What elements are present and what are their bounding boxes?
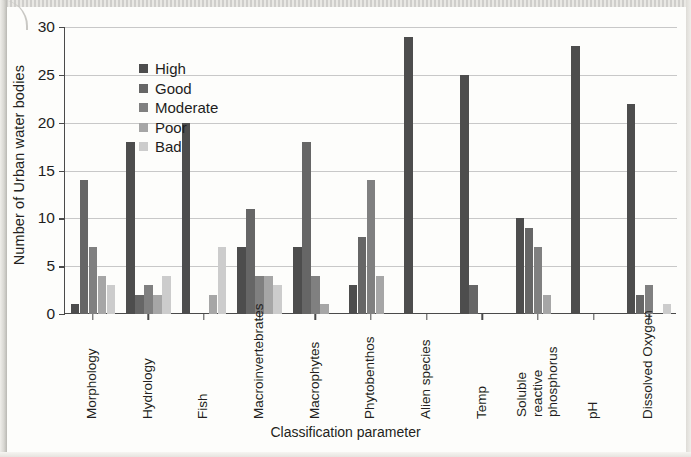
y-axis-tick-label: 15 (38, 162, 55, 180)
x-axis-label-morphology: Morphology (64, 321, 120, 419)
bar-poor[interactable] (543, 295, 552, 314)
bar-poor[interactable] (264, 276, 273, 314)
y-axis-title-label: Number of Urban water bodies (11, 65, 27, 265)
y-axis-tick-label: 0 (46, 305, 55, 323)
bar-bad[interactable] (663, 304, 672, 314)
plot-area: 051015202530 HighGoodModeratePoorBad (64, 27, 676, 314)
bar-high[interactable] (71, 304, 80, 314)
legend-swatch-icon (139, 84, 148, 93)
bar-group (65, 27, 121, 314)
legend-item-label: Poor (155, 120, 187, 135)
legend-item-poor[interactable]: Poor (139, 118, 218, 138)
bar-high[interactable] (349, 285, 358, 314)
x-axis-tick (537, 314, 538, 320)
x-axis-tick (148, 314, 149, 320)
legend-item-label: Moderate (155, 100, 218, 115)
x-axis-label-dissolved-oxygen: Dissolved Oxygen (620, 321, 676, 419)
x-axis-tick-labels: MorphologyHydrologyFishMacroinvertebrate… (64, 321, 676, 419)
legend-item-label: Good (155, 81, 192, 96)
bar-poor[interactable] (153, 295, 162, 314)
x-axis-label-text: Phytobenthos (362, 321, 378, 419)
bar-bad[interactable] (162, 276, 171, 314)
bar-group (621, 27, 677, 314)
legend-item-label: High (155, 61, 186, 76)
scan-artifact-right (686, 0, 691, 457)
x-axis-label-text: Morphology (84, 321, 100, 419)
x-axis-label-ph: pH (565, 321, 621, 419)
x-axis-tick (482, 314, 483, 320)
bar-good[interactable] (469, 285, 478, 314)
x-axis-label-fish: Fish (175, 321, 231, 419)
x-axis-label-alien-species: Alien species (398, 321, 454, 419)
x-axis-tick (92, 314, 93, 320)
bar-good[interactable] (358, 237, 367, 314)
bar-good[interactable] (302, 142, 311, 314)
x-axis-label-text: Alien species (418, 321, 434, 419)
bar-group (399, 27, 455, 314)
x-axis-label-temp: Temp (453, 321, 509, 419)
bar-group (454, 27, 510, 314)
y-axis-tick-label: 10 (38, 209, 55, 227)
bar-group (343, 27, 399, 314)
x-axis-tick (203, 314, 204, 320)
bar-high[interactable] (293, 247, 302, 314)
bar-good[interactable] (246, 209, 255, 314)
bar-high[interactable] (516, 218, 525, 314)
x-axis-label-text: pH (585, 321, 601, 419)
x-axis-label-hydrology: Hydrology (120, 321, 176, 419)
x-axis-tick (370, 314, 371, 320)
bar-moderate[interactable] (367, 180, 376, 314)
x-axis-label-phytobenthos: Phytobenthos (342, 321, 398, 419)
legend-swatch-icon (139, 123, 148, 132)
bar-bad[interactable] (107, 285, 116, 314)
x-axis-label-text: Macroinvertebrates (251, 321, 267, 419)
figure-canvas: Number of Urban water bodies 05101520253… (0, 0, 691, 457)
bar-high[interactable] (571, 46, 580, 314)
bar-good[interactable] (525, 228, 534, 314)
scan-artifact-left (0, 0, 7, 457)
legend-item-high[interactable]: High (139, 59, 218, 79)
x-axis-tick (593, 314, 594, 320)
bar-high[interactable] (627, 104, 636, 314)
bar-high[interactable] (460, 75, 469, 314)
bar-group (232, 27, 288, 314)
bar-moderate[interactable] (89, 247, 98, 314)
bar-good[interactable] (135, 295, 144, 314)
bar-poor[interactable] (98, 276, 107, 314)
bar-poor[interactable] (320, 304, 329, 314)
bar-good[interactable] (80, 180, 89, 314)
y-axis-tick (59, 314, 65, 315)
y-axis-tick-label: 25 (38, 66, 55, 84)
legend-item-moderate[interactable]: Moderate (139, 98, 218, 118)
y-axis-title: Number of Urban water bodies (8, 40, 30, 290)
legend-swatch-icon (139, 142, 148, 151)
x-axis-label-text: Macrophytes (307, 321, 323, 419)
bar-high[interactable] (237, 247, 246, 314)
bar-poor[interactable] (376, 276, 385, 314)
x-axis-label-text: Temp (474, 321, 490, 419)
bar-poor[interactable] (209, 295, 218, 314)
x-axis-tick (315, 314, 316, 320)
y-axis-tick-label: 30 (38, 18, 55, 36)
bar-group (566, 27, 622, 314)
x-axis-tick (426, 314, 427, 320)
bar-moderate[interactable] (534, 247, 543, 314)
bar-bad[interactable] (273, 285, 282, 314)
x-axis-label-soluble-reactive-phosphorus: Soluble reactive phosphorus (509, 321, 565, 419)
bar-group (510, 27, 566, 314)
bar-high[interactable] (126, 142, 135, 314)
legend: HighGoodModeratePoorBad (139, 59, 218, 157)
legend-item-good[interactable]: Good (139, 79, 218, 99)
y-axis-tick-label: 20 (38, 114, 55, 132)
scan-artifact-bottom (0, 452, 691, 457)
x-axis-label-macroinvertebrates: Macroinvertebrates (231, 321, 287, 419)
x-axis-label-text: Dissolved Oxygen (640, 321, 656, 419)
x-axis-title: Classification parameter (0, 424, 691, 440)
legend-item-bad[interactable]: Bad (139, 137, 218, 157)
bar-group (288, 27, 344, 314)
bar-high[interactable] (404, 37, 413, 314)
bar-bad[interactable] (218, 247, 227, 314)
bar-moderate[interactable] (311, 276, 320, 314)
scan-artifact-top (0, 0, 691, 7)
bar-moderate[interactable] (144, 285, 153, 314)
